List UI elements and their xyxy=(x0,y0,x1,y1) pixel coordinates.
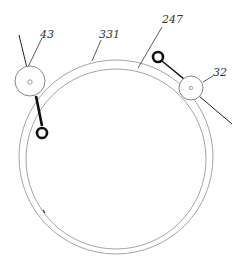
leader-43 xyxy=(28,38,42,67)
label-43: 43 xyxy=(39,28,54,41)
tension-arm-right xyxy=(162,61,184,79)
line-32-tail xyxy=(199,96,232,124)
label-247: 247 xyxy=(161,13,183,26)
leader-32 xyxy=(203,76,213,82)
label-32: 32 xyxy=(213,66,227,79)
diagram-canvas: 43 331 247 32 xyxy=(0,0,245,266)
pulley-32 xyxy=(179,76,203,100)
inner-ring xyxy=(26,69,206,249)
arm-pivot-left xyxy=(37,128,47,138)
tension-arm-left xyxy=(36,96,42,126)
pulley-43 xyxy=(15,66,45,96)
leader-331 xyxy=(92,40,101,61)
label-331: 331 xyxy=(99,28,120,41)
arm-pivot-right xyxy=(153,52,163,62)
leader-line-43-arm xyxy=(19,35,27,68)
